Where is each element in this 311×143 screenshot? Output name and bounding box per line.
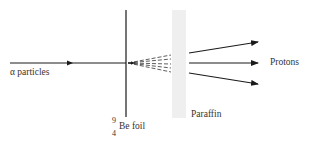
neutral-radiation-dashes bbox=[128, 55, 171, 72]
alpha-particles-label: α particles bbox=[10, 67, 50, 77]
protons-label: Protons bbox=[270, 57, 299, 67]
proton-arrows bbox=[189, 42, 258, 84]
proton-arrow-down-icon bbox=[189, 73, 258, 84]
alpha-beam bbox=[10, 61, 126, 66]
be-foil-text: Be foil bbox=[119, 121, 145, 131]
atomic-number: 4 bbox=[112, 130, 116, 138]
mass-number: 9 bbox=[112, 117, 116, 125]
proton-arrow-up-icon bbox=[189, 42, 258, 53]
paraffin-block bbox=[172, 10, 186, 118]
alpha-arrowhead-icon bbox=[67, 61, 73, 66]
paraffin-label: Paraffin bbox=[191, 109, 221, 119]
